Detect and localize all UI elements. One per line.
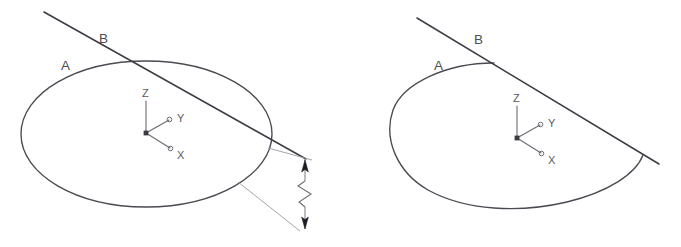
left-axis-label-z: Z (142, 87, 149, 99)
right-axis-x-line (517, 138, 541, 153)
right-axis-y-head (538, 122, 543, 127)
left-axis-triad: Z Y X (142, 87, 185, 161)
right-panel: A B Z Y X (390, 18, 659, 209)
right-axis-y-line (517, 125, 540, 138)
left-dim-ext-lower (238, 182, 300, 231)
technical-diagram: A B Z Y X (0, 0, 681, 247)
left-label-a: A (61, 58, 70, 73)
right-axis-label-x: X (548, 154, 556, 166)
left-axis-y-head (167, 117, 172, 122)
left-axis-origin-marker (144, 131, 149, 136)
right-cut-line-b (417, 18, 659, 164)
right-axis-triad: Z Y X (513, 92, 556, 166)
left-panel: A B Z Y X (21, 12, 312, 231)
right-label-a: A (434, 58, 443, 73)
left-axis-x-line (146, 133, 170, 148)
right-axis-origin-marker (515, 136, 520, 141)
right-axis-x-head (539, 151, 544, 156)
right-label-b: B (474, 32, 483, 47)
left-axis-label-x: X (177, 149, 185, 161)
diagram-canvas: A B Z Y X (0, 0, 681, 247)
left-axis-y-line (146, 120, 169, 133)
left-dim-break-symbol (298, 181, 311, 207)
left-axis-label-y: Y (177, 112, 185, 124)
left-cut-line-b (44, 12, 306, 159)
left-axis-x-head (168, 146, 173, 151)
left-label-b: B (99, 31, 108, 46)
right-axis-label-y: Y (548, 117, 556, 129)
right-axis-label-z: Z (513, 92, 520, 104)
left-offset-dimension (238, 148, 312, 231)
